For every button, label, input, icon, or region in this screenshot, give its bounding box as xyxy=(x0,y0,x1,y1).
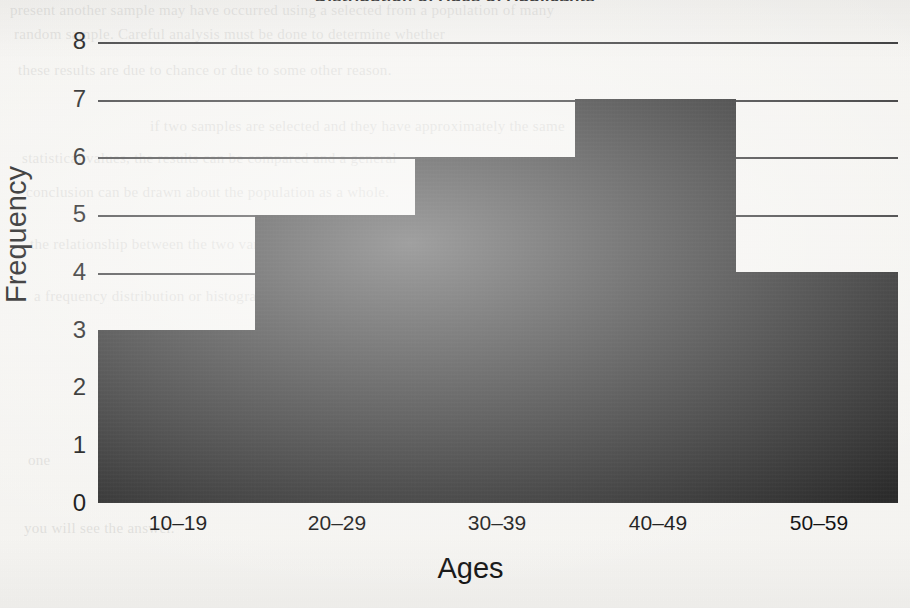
y-tick-label-6: 6 xyxy=(52,145,86,169)
x-tick-label-10-19: 10–19 xyxy=(93,512,263,533)
histogram-chart: Frequency 8 7 6 5 4 3 2 1 0 10–19 20–29 … xyxy=(0,0,910,608)
bar-20-29 xyxy=(255,215,415,503)
y-tick-label-8: 8 xyxy=(52,29,86,53)
x-tick-label-40-49: 40–49 xyxy=(573,512,743,533)
gridline-7 xyxy=(98,100,898,102)
x-tick-label-30-39: 30–39 xyxy=(412,512,582,533)
y-tick-label-1: 1 xyxy=(52,433,86,457)
bar-50-59 xyxy=(736,272,898,503)
y-tick-label-2: 2 xyxy=(52,375,86,399)
x-tick-label-20-29: 20–29 xyxy=(252,512,422,533)
x-axis-title: Ages xyxy=(98,552,843,585)
x-tick-label-50-59: 50–59 xyxy=(734,512,904,533)
y-tick-label-0: 0 xyxy=(52,491,86,515)
y-axis-title: Frequency xyxy=(0,125,33,345)
bar-10-19 xyxy=(98,330,255,503)
scanned-page: present another sample may have occurred… xyxy=(0,0,910,608)
y-tick-label-7: 7 xyxy=(52,87,86,111)
gridline-8 xyxy=(98,42,898,44)
bar-30-39 xyxy=(415,157,575,503)
y-tick-label-3: 3 xyxy=(52,318,86,342)
y-tick-label-5: 5 xyxy=(52,202,86,226)
bar-40-49 xyxy=(575,99,736,503)
plot-area xyxy=(98,42,898,503)
y-tick-label-4: 4 xyxy=(52,260,86,284)
